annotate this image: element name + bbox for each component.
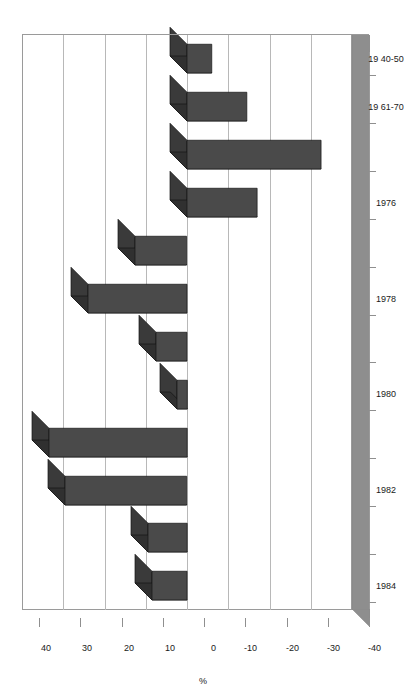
bar <box>187 140 321 169</box>
gridline <box>105 35 106 610</box>
value-axis-tick <box>369 618 370 627</box>
category-axis-tick <box>369 362 376 363</box>
value-axis-tick-label: 10 <box>149 643 175 653</box>
category-axis-tick <box>369 219 376 220</box>
category-axis-label: 1980 <box>356 389 408 399</box>
bar <box>187 45 212 74</box>
floor-front-edge <box>369 52 370 627</box>
bar <box>177 380 187 409</box>
category-axis-label: 1976 <box>356 198 408 208</box>
value-axis-tick-label: 0 <box>190 643 216 653</box>
value-axis-tick <box>245 618 246 627</box>
bar <box>135 236 187 265</box>
right-wall-edge <box>22 34 369 35</box>
floor-left-corner <box>352 609 370 627</box>
bar <box>49 428 187 457</box>
bar <box>88 284 187 313</box>
value-axis-tick <box>328 618 329 627</box>
category-axis-tick <box>369 602 376 603</box>
category-axis-tick <box>369 75 376 76</box>
floor-band <box>352 35 370 610</box>
gridline <box>63 35 64 610</box>
value-axis-tick-label: -30 <box>314 643 340 653</box>
category-axis-tick <box>369 554 376 555</box>
bar <box>156 332 187 361</box>
bar <box>148 524 187 553</box>
category-axis-tick <box>369 267 376 268</box>
value-axis-tick <box>39 618 40 627</box>
category-axis-label: 1984 <box>356 581 408 591</box>
category-axis-tick <box>369 410 376 411</box>
value-axis-tick <box>122 618 123 627</box>
value-axis-tick-label: -20 <box>273 643 299 653</box>
gridline <box>22 35 23 610</box>
bar <box>187 93 247 122</box>
value-axis-tick <box>204 618 205 627</box>
value-axis-tick-label: 30 <box>66 643 92 653</box>
value-axis-tick <box>80 618 81 627</box>
value-axis-tick-label: 40 <box>25 643 51 653</box>
value-axis-tick-label: 20 <box>108 643 134 653</box>
category-axis-tick <box>369 315 376 316</box>
category-axis-label: 1978 <box>356 294 408 304</box>
category-axis-label: 1982 <box>356 485 408 495</box>
category-axis-tick <box>369 506 376 507</box>
category-axis-tick <box>369 123 376 124</box>
value-axis-tick-label: -40 <box>355 643 381 653</box>
value-axis-tick-label: -10 <box>231 643 257 653</box>
bar <box>187 188 257 217</box>
value-axis-tick <box>287 618 288 627</box>
category-axis-tick <box>369 458 376 459</box>
value-axis-tick <box>163 618 164 627</box>
category-axis-label: 19 40-50 <box>356 54 408 64</box>
value-axis-title: % <box>199 676 207 686</box>
bar <box>152 572 187 601</box>
category-axis-tick <box>369 171 376 172</box>
category-axis-label: 19 61-70 <box>356 102 408 112</box>
bar <box>65 476 187 505</box>
